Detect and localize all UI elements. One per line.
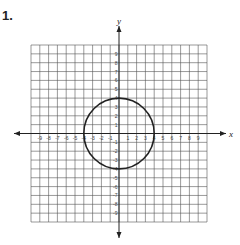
y-tick-label: -3: [113, 157, 118, 163]
x-tick-label: 9: [197, 135, 200, 141]
y-tick-label: 6: [115, 77, 118, 83]
y-tick-label: -2: [113, 148, 118, 154]
x-tick-label: -3: [90, 135, 95, 141]
y-tick-label: 7: [115, 69, 118, 75]
x-tick-label: -2: [99, 135, 104, 141]
y-tick-label: 5: [115, 86, 118, 92]
x-tick-label: 7: [179, 135, 182, 141]
x-tick-label: -8: [46, 135, 51, 141]
coordinate-plane: xy -9-8-7-6-5-4-3-2-1123456789987654321-…: [0, 0, 240, 245]
x-tick-label: -7: [55, 135, 60, 141]
y-tick-label: 9: [115, 51, 118, 57]
x-tick-label: -5: [73, 135, 78, 141]
x-axis-label: x: [228, 129, 233, 139]
y-tick-label: -6: [113, 184, 118, 190]
y-tick-label: 3: [115, 104, 118, 110]
y-tick-label: 2: [115, 113, 118, 119]
y-axis-down-arrow-icon: [117, 232, 122, 238]
x-axis-right-arrow-icon: [220, 131, 226, 136]
x-tick-label: 6: [170, 135, 173, 141]
axes: xy: [14, 16, 233, 238]
y-tick-label: -9: [113, 210, 118, 216]
y-tick-label: -1: [113, 139, 118, 145]
x-axis-left-arrow-icon: [14, 131, 20, 136]
y-axis-up-arrow-icon: [117, 26, 122, 32]
x-tick-label: -1: [108, 135, 113, 141]
y-tick-label: 1: [115, 122, 118, 128]
x-tick-label: 2: [135, 135, 138, 141]
x-tick-label: -9: [38, 135, 43, 141]
x-tick-label: 8: [188, 135, 191, 141]
x-tick-label: 5: [162, 135, 165, 141]
y-tick-label: 8: [115, 60, 118, 66]
x-tick-label: 1: [126, 135, 129, 141]
y-tick-label: -7: [113, 192, 118, 198]
x-tick-label: -6: [64, 135, 69, 141]
y-tick-label: -8: [113, 201, 118, 207]
x-tick-label: 3: [144, 135, 147, 141]
y-tick-label: -5: [113, 175, 118, 181]
y-axis-label: y: [116, 16, 121, 26]
